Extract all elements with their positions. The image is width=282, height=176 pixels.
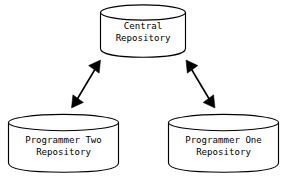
connector-central-to-programmer-one[interactable] (186, 60, 215, 108)
programmer-one-label-line1: Programmer One (185, 135, 262, 145)
connector-right-arrowhead-down (203, 95, 215, 108)
central-label-line1: Central (124, 21, 162, 31)
node-programmer-two-repository[interactable]: Programmer Two Repository (9, 114, 119, 172)
programmer-one-label-line2: Repository (196, 147, 251, 157)
repository-topology-diagram: Central Repository Programmer Two Reposi… (0, 0, 282, 176)
programmer-two-cylinder-top (9, 114, 119, 130)
connector-right-shaft (191, 69, 210, 100)
connector-left-arrowhead-down (72, 95, 84, 108)
node-central-repository[interactable]: Central Repository (101, 5, 186, 57)
programmer-two-label-line1: Programmer Two (25, 135, 102, 145)
diagram-canvas: Central Repository Programmer Two Reposi… (0, 0, 282, 176)
central-cylinder-top (101, 5, 186, 20)
connector-left-shaft (77, 69, 96, 100)
programmer-two-label-line2: Repository (36, 147, 91, 157)
node-programmer-one-repository[interactable]: Programmer One Repository (169, 114, 279, 172)
programmer-one-cylinder-top (169, 114, 279, 130)
central-label-line2: Repository (116, 33, 171, 43)
connector-central-to-programmer-two[interactable] (72, 60, 101, 108)
